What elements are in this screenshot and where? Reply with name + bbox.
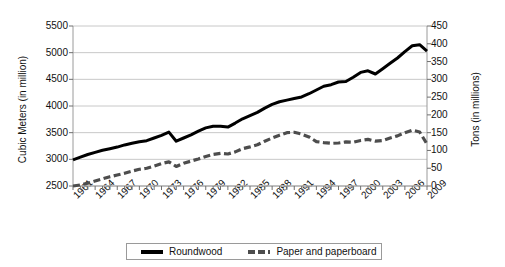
legend-label-paper-and-paperboard: Paper and paperboard xyxy=(276,246,376,257)
legend-label-roundwood: Roundwood xyxy=(169,246,222,257)
legend-swatch-solid-icon xyxy=(141,250,163,254)
series-line-paper-and-paperboard xyxy=(73,130,427,186)
plot-area xyxy=(0,0,505,267)
legend: Roundwood Paper and paperboard xyxy=(126,243,382,260)
gridlines xyxy=(73,26,427,186)
legend-item-roundwood: Roundwood xyxy=(141,246,222,257)
data-series-layer xyxy=(73,45,427,186)
legend-item-paper-and-paperboard: Paper and paperboard xyxy=(248,246,376,257)
series-line-roundwood xyxy=(73,45,427,160)
axis-tickmarks xyxy=(69,26,431,190)
chart-container: Cubic Meters (in million) Tons (in milli… xyxy=(0,0,505,267)
legend-swatch-dashed-icon xyxy=(248,250,270,254)
